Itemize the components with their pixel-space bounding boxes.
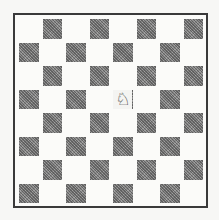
square-b2[interactable] bbox=[41, 158, 65, 182]
square-a7[interactable] bbox=[17, 41, 41, 65]
square-c1[interactable] bbox=[64, 182, 88, 206]
square-e7[interactable] bbox=[111, 41, 135, 65]
square-a8[interactable] bbox=[17, 17, 41, 41]
square-e6[interactable] bbox=[111, 64, 135, 88]
square-h1[interactable] bbox=[182, 182, 206, 206]
square-g1[interactable] bbox=[158, 182, 182, 206]
square-d1[interactable] bbox=[88, 182, 112, 206]
square-a2[interactable] bbox=[17, 158, 41, 182]
square-d3[interactable] bbox=[88, 135, 112, 159]
square-h7[interactable] bbox=[182, 41, 206, 65]
square-a6[interactable] bbox=[17, 64, 41, 88]
square-g8[interactable] bbox=[158, 17, 182, 41]
square-c4[interactable] bbox=[64, 111, 88, 135]
square-f5[interactable] bbox=[135, 88, 159, 112]
square-b7[interactable] bbox=[41, 41, 65, 65]
square-g3[interactable] bbox=[158, 135, 182, 159]
square-h3[interactable] bbox=[182, 135, 206, 159]
square-d8[interactable] bbox=[88, 17, 112, 41]
square-e5[interactable]: ♘ bbox=[111, 88, 135, 112]
square-f7[interactable] bbox=[135, 41, 159, 65]
square-d7[interactable] bbox=[88, 41, 112, 65]
square-f8[interactable] bbox=[135, 17, 159, 41]
square-h2[interactable] bbox=[182, 158, 206, 182]
square-c3[interactable] bbox=[64, 135, 88, 159]
square-g4[interactable] bbox=[158, 111, 182, 135]
square-c5[interactable] bbox=[64, 88, 88, 112]
square-b6[interactable] bbox=[41, 64, 65, 88]
square-e2[interactable] bbox=[111, 158, 135, 182]
square-f1[interactable] bbox=[135, 182, 159, 206]
square-a1[interactable] bbox=[17, 182, 41, 206]
square-e4[interactable] bbox=[111, 111, 135, 135]
square-g7[interactable] bbox=[158, 41, 182, 65]
square-d6[interactable] bbox=[88, 64, 112, 88]
square-g2[interactable] bbox=[158, 158, 182, 182]
square-f2[interactable] bbox=[135, 158, 159, 182]
square-b5[interactable] bbox=[41, 88, 65, 112]
square-c6[interactable] bbox=[64, 64, 88, 88]
board-grid: ♘ bbox=[17, 17, 205, 205]
square-d4[interactable] bbox=[88, 111, 112, 135]
square-d5[interactable] bbox=[88, 88, 112, 112]
white-knight-icon[interactable]: ♘ bbox=[113, 90, 132, 109]
square-b4[interactable] bbox=[41, 111, 65, 135]
square-h4[interactable] bbox=[182, 111, 206, 135]
square-a5[interactable] bbox=[17, 88, 41, 112]
square-a4[interactable] bbox=[17, 111, 41, 135]
square-f3[interactable] bbox=[135, 135, 159, 159]
square-e8[interactable] bbox=[111, 17, 135, 41]
square-c2[interactable] bbox=[64, 158, 88, 182]
square-h5[interactable] bbox=[182, 88, 206, 112]
square-b3[interactable] bbox=[41, 135, 65, 159]
chessboard: ♘ bbox=[13, 13, 208, 208]
square-g5[interactable] bbox=[158, 88, 182, 112]
square-f6[interactable] bbox=[135, 64, 159, 88]
square-g6[interactable] bbox=[158, 64, 182, 88]
square-b1[interactable] bbox=[41, 182, 65, 206]
square-d2[interactable] bbox=[88, 158, 112, 182]
square-c7[interactable] bbox=[64, 41, 88, 65]
square-h6[interactable] bbox=[182, 64, 206, 88]
square-a3[interactable] bbox=[17, 135, 41, 159]
square-f4[interactable] bbox=[135, 111, 159, 135]
square-c8[interactable] bbox=[64, 17, 88, 41]
square-b8[interactable] bbox=[41, 17, 65, 41]
square-e3[interactable] bbox=[111, 135, 135, 159]
square-e1[interactable] bbox=[111, 182, 135, 206]
square-h8[interactable] bbox=[182, 17, 206, 41]
